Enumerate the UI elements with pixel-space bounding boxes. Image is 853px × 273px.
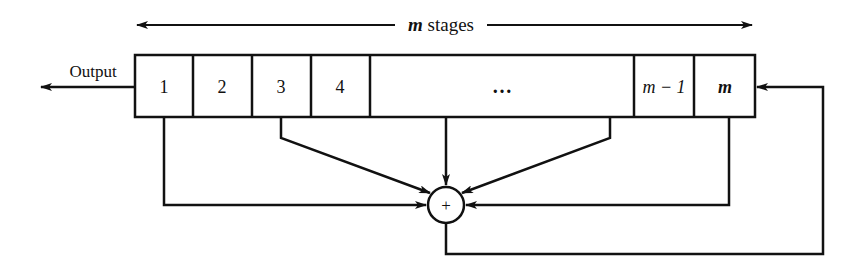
adder-symbol: + (441, 196, 451, 215)
tap-3-line (281, 117, 430, 193)
cell-1-label: 1 (160, 77, 169, 97)
tap-m-line (466, 117, 729, 205)
cell-3-label: 3 (277, 77, 286, 97)
cell-4-label: 4 (336, 77, 345, 97)
cell-ellipsis-label: … (492, 75, 512, 97)
output-label: Output (69, 62, 117, 81)
tap-m-minus-2-line (462, 117, 610, 193)
cell-m-label: m (718, 77, 732, 97)
cell-dividers (193, 55, 694, 117)
cell-2-label: 2 (218, 77, 227, 97)
tap-1-line (164, 117, 426, 205)
stages-label-text: stages (423, 14, 474, 35)
stages-label: m stages (408, 14, 474, 35)
lfsr-diagram: m stages 1 2 3 4 … m − 1 m Output + (0, 0, 853, 273)
xor-adder: + (428, 187, 464, 223)
cell-m-minus-1-label: m − 1 (642, 77, 685, 97)
stages-label-var: m (408, 14, 423, 35)
